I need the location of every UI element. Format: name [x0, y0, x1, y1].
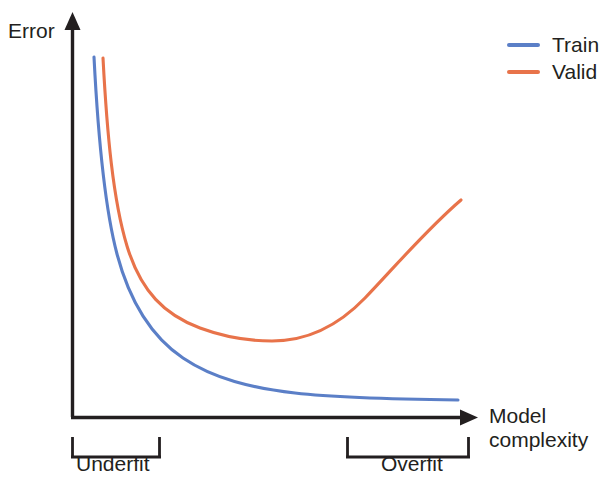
series-line-valid	[103, 58, 461, 341]
overfit-region-label: Overfit	[381, 452, 443, 476]
legend-item-valid: Valid	[507, 58, 608, 85]
legend-item-train: Train	[507, 31, 608, 58]
legend-swatch-valid	[507, 70, 540, 74]
chart-figure: Error Modelcomplexity Underfit Overfit T…	[0, 0, 608, 481]
underfit-region-label: Underfit	[76, 452, 150, 476]
series-line-train	[94, 57, 458, 400]
y-axis-label: Error	[8, 19, 55, 43]
legend-label-valid: Valid	[552, 60, 597, 84]
x-axis-label-line1: Model	[489, 404, 546, 427]
legend-swatch-train	[507, 43, 540, 47]
x-axis-label-line2: complexity	[489, 428, 588, 451]
y-axis	[65, 12, 81, 417]
chart-legend: Train Valid	[507, 31, 608, 85]
x-axis	[71, 410, 478, 426]
legend-label-train: Train	[552, 33, 599, 57]
x-axis-label: Modelcomplexity	[489, 404, 588, 452]
